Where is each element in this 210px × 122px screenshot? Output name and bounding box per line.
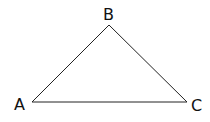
triangle-diagram: A B C bbox=[0, 0, 210, 122]
vertex-label-b: B bbox=[103, 5, 114, 24]
triangle-abc bbox=[32, 25, 187, 102]
vertex-label-c: C bbox=[191, 96, 202, 115]
vertex-label-a: A bbox=[14, 95, 25, 114]
